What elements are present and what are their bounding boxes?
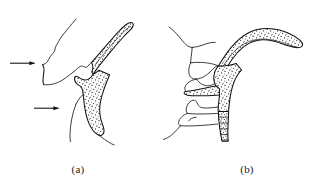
panel-a-inferior-contour (44, 72, 74, 85)
panel-b-caption: (b) (232, 163, 262, 175)
panel-a-caption: (a) (63, 163, 93, 175)
panel-b-superior-contour (169, 27, 215, 63)
panel-b-inferior-contour (163, 100, 218, 139)
panel-b-bone-body (184, 63, 241, 111)
panel-b-inferior-stem (218, 111, 228, 141)
panel-a-superior-ramus (91, 22, 133, 74)
figure-container: (a) (b) (0, 0, 323, 188)
panel-b-drawing (163, 27, 302, 141)
panel-a-bone-body (75, 70, 110, 135)
panel-a-articular-line (74, 63, 92, 72)
panel-a-drawing (10, 19, 133, 145)
panel-a-anterior-contour (43, 19, 76, 85)
figure-illustration (0, 0, 323, 188)
